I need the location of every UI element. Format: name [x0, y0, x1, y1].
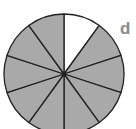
- figure-label: d: [120, 20, 130, 37]
- fraction-circle-diagram: [0, 0, 136, 129]
- center-point: [62, 72, 66, 76]
